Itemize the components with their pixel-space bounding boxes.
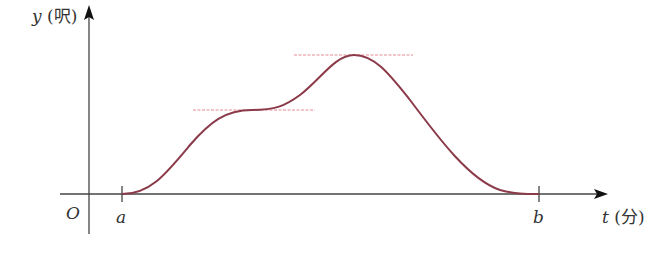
graph-curve <box>122 55 539 194</box>
x-axis-label: t (分) <box>602 207 645 227</box>
tick-label-a: a <box>116 207 126 227</box>
origin-label: O <box>66 203 80 223</box>
function-graph: y (呎) O a b t (分) <box>0 0 665 254</box>
y-axis-label: y (呎) <box>31 6 77 26</box>
tick-label-b: b <box>533 207 544 227</box>
